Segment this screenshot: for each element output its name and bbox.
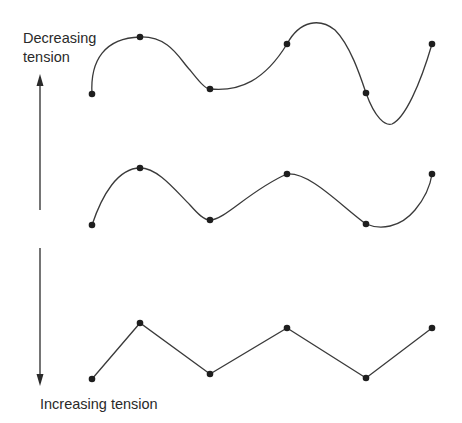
medium-tension-curve (89, 165, 436, 229)
control-point (89, 91, 96, 98)
control-point (207, 86, 214, 93)
control-point (89, 376, 96, 383)
control-point (363, 90, 370, 97)
control-point (429, 325, 436, 332)
control-point (284, 171, 291, 178)
control-point (429, 171, 436, 178)
control-point (363, 375, 370, 382)
control-point (137, 165, 144, 172)
control-point (207, 371, 214, 378)
control-point (137, 34, 144, 41)
control-point (89, 222, 96, 229)
tension-diagram (0, 0, 462, 423)
control-point (363, 221, 370, 228)
control-point (284, 325, 291, 332)
down-arrow-icon (37, 248, 44, 386)
low-tension-curve (89, 23, 436, 124)
high-tension-polyline (89, 320, 436, 383)
control-point (207, 217, 214, 224)
up-arrow-icon (37, 74, 44, 210)
control-point (429, 41, 436, 48)
control-point (284, 41, 291, 48)
control-point (137, 320, 144, 327)
